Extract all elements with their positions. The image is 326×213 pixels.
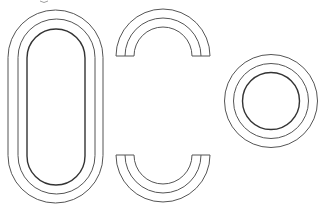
top-arch-ring-2 <box>125 18 201 56</box>
top-arch-ring-3 <box>134 27 192 56</box>
bottom-arch <box>116 155 210 202</box>
top-arch <box>116 9 210 56</box>
bottom-arch-ring-1 <box>116 155 210 202</box>
cropped-header-text-fragment <box>40 1 48 3</box>
stadium-rings <box>8 10 103 203</box>
bottom-arch-ring-3 <box>134 155 192 184</box>
circle-ring-1 <box>225 55 318 148</box>
circle-ring-3 <box>243 73 300 130</box>
diagram-canvas <box>0 0 326 213</box>
stadium-ring-3 <box>27 29 85 185</box>
bottom-arch-ring-2 <box>125 155 201 193</box>
shapes-layer <box>8 9 318 203</box>
circle-rings <box>225 55 318 148</box>
circle-ring-2 <box>234 64 309 139</box>
top-arch-ring-1 <box>116 9 210 56</box>
